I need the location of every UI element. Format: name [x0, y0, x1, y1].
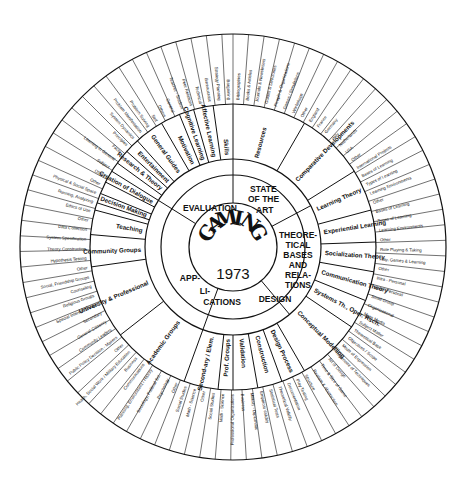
outer-ring-label: Other	[77, 216, 89, 223]
outer-ring-label: USA	[344, 145, 354, 155]
sector-label-line: EVALUATION	[183, 203, 237, 213]
outer-ring-label: Math - Science	[218, 393, 225, 423]
outer-ring-label: Data Collection	[58, 224, 88, 232]
outer-divider	[360, 150, 422, 182]
outer-ring-label: Other	[113, 342, 125, 353]
middle-ring-label: Second-ary / Elem.	[196, 335, 215, 391]
middle-ring-label: Skills	[223, 139, 231, 156]
middle-ring-label: Community Groups	[83, 246, 142, 255]
middle-divider	[120, 301, 163, 335]
sector-label-line: APP-	[180, 273, 200, 283]
outer-divider	[355, 322, 414, 359]
outer-ring-label: Professional Organizations	[230, 394, 235, 445]
outer-ring-label: Social Studies	[207, 392, 216, 420]
sector-label-line: ART	[256, 205, 274, 215]
sector-label-line: TIONS	[285, 280, 311, 290]
outer-ring-label: Others	[157, 104, 167, 118]
outer-ring-label: Types of Learning	[377, 212, 412, 223]
outer-ring-label: Business	[240, 394, 246, 412]
gaming-1973-wheel-diagram: 1973 GAMING STATE OF THE ART THEORE- TIC…	[0, 0, 465, 494]
middle-ring-label: Prof. Groups	[222, 338, 231, 377]
outer-ring-label: Military - Diplomatic	[250, 392, 260, 431]
outer-ring-label: Other	[350, 152, 362, 163]
sector-label-line: THEORE-	[279, 230, 317, 240]
sector-label-line: AND	[289, 260, 307, 270]
sector-label-line: TICAL	[285, 240, 310, 250]
middle-ring-label: Design Process	[269, 329, 295, 375]
outer-ring-label: Bureaucratic	[204, 78, 213, 103]
outer-divider	[303, 61, 337, 122]
sector-evaluation: EVALUATION	[183, 203, 237, 213]
sector-label-line: DESIGN	[259, 294, 292, 304]
middle-divider	[91, 235, 146, 240]
middle-ring-label: Learning Theory	[315, 186, 363, 212]
outer-ring-label: Bibliographies	[235, 73, 241, 100]
middle-divider	[277, 123, 305, 171]
sector-label-line: OF THE	[248, 194, 279, 204]
outer-divider	[222, 34, 226, 104]
sector-design: DESIGN	[259, 294, 292, 304]
outer-divider	[119, 67, 157, 126]
outer-divider	[355, 137, 415, 173]
outer-ring-label: Other	[299, 106, 309, 118]
middle-ring-label: Construction	[254, 335, 271, 374]
outer-ring-label: Other	[199, 390, 206, 402]
outer-ring-label: Other	[170, 381, 179, 393]
sector-label-line: LI-	[200, 286, 211, 296]
middle-ring-label: Validation	[238, 338, 248, 368]
sector-label-line: STATE	[250, 184, 277, 194]
middle-ring-label: Resources	[253, 126, 268, 159]
outer-ring-label: Bargaining	[226, 79, 232, 100]
outer-ring-label: Theory Construction	[47, 246, 86, 252]
outer-ring-label: Strategy Planning	[214, 67, 222, 102]
outer-ring-label: Other	[378, 266, 390, 273]
outer-ring-label: Math - Science	[185, 388, 197, 418]
outer-divider	[294, 54, 324, 117]
outer-ring-label: Other	[89, 177, 101, 186]
sector-label-line: RELA-	[285, 270, 311, 280]
sector-theoretical-bases: THEORE- TICAL BASES AND RELA- TIONS	[279, 230, 317, 290]
outer-divider	[376, 253, 446, 256]
outer-ring-label: Other	[372, 197, 384, 205]
outer-ring-label: Other	[76, 265, 88, 272]
outer-ring-label: Books & Articles	[245, 70, 253, 101]
sector-divider	[272, 206, 311, 227]
outer-ring-label: General	[165, 98, 176, 114]
outer-ring-label: Technical	[194, 86, 203, 105]
middle-ring-label: Teaching	[116, 222, 144, 234]
outer-ring-label: Self	[151, 114, 160, 124]
outer-ring-label: France	[316, 114, 328, 128]
outer-ring-label: Counseling	[70, 284, 93, 295]
middle-divider	[321, 242, 376, 244]
center-year: 1973	[216, 265, 249, 282]
outer-ring-label: Health, Social Work / Military Education	[75, 349, 132, 406]
sector-label-line: CATIONS	[203, 297, 241, 307]
outer-ring-label: Other	[380, 237, 392, 243]
outer-divider	[312, 70, 351, 128]
outer-ring-label: Role Playing & Taking	[380, 247, 422, 253]
outer-ring-label: Empirical Validity	[259, 391, 270, 425]
outer-ring-label: System Specification	[46, 235, 87, 242]
middle-divider	[91, 259, 145, 267]
middle-ring-label: Academic Groups	[144, 318, 181, 365]
sector-label-line: BASES	[283, 250, 313, 260]
center-label: 1973 GAMING	[193, 204, 274, 282]
outer-ring-label: Play, Games & Learning	[379, 256, 426, 265]
